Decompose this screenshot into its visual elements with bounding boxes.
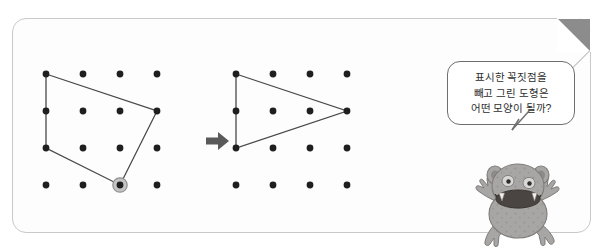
grid-dot	[80, 71, 87, 78]
grid-dot	[307, 145, 314, 152]
grid-dot	[270, 182, 277, 189]
speech-bubble-line-2: 빼고 그린 도형은	[454, 86, 568, 102]
grid-dot	[344, 145, 351, 152]
grid-dot	[117, 108, 124, 115]
grid-dot	[154, 71, 161, 78]
worksheet-card: 표시한 꼭짓점을 빼고 그린 도형은 어떤 모양이 될까?	[12, 18, 591, 233]
grid-dot	[233, 182, 240, 189]
grid-dot	[233, 71, 240, 78]
grid-dot	[270, 108, 277, 115]
grid-dot	[344, 71, 351, 78]
grid-dot	[270, 145, 277, 152]
marked-vertex-dot	[117, 182, 124, 189]
grid-dot	[154, 145, 161, 152]
speech-bubble-line-1: 표시한 꼭짓점을	[454, 70, 568, 86]
grid-dot	[117, 145, 124, 152]
transform-arrow-icon	[206, 131, 230, 151]
grid-dot	[80, 145, 87, 152]
speech-bubble-tail	[509, 111, 535, 133]
grid-dot	[43, 182, 50, 189]
grid-dot	[307, 182, 314, 189]
grid-dot	[80, 108, 87, 115]
right-figure-triangle	[233, 71, 393, 211]
grid-dot	[43, 108, 50, 115]
triangle-outline	[236, 74, 347, 148]
left-figure-quadrilateral	[43, 71, 203, 211]
grid-dot	[270, 71, 277, 78]
grid-dot	[43, 71, 50, 78]
grid-dot	[154, 108, 161, 115]
grid-dot	[154, 182, 161, 189]
grid-dot	[307, 71, 314, 78]
monster-left-pupil	[506, 179, 510, 183]
grid-dot	[117, 71, 124, 78]
grid-dot	[233, 108, 240, 115]
grid-dot	[80, 182, 87, 189]
monster-right-pupil	[527, 181, 531, 185]
grid-dot	[307, 108, 314, 115]
grid-dot	[344, 108, 351, 115]
grid-dot	[233, 145, 240, 152]
gray-monster-toad-illustration	[468, 157, 568, 248]
grid-dot	[43, 145, 50, 152]
quadrilateral-outline	[46, 74, 157, 185]
page-fold-corner-icon	[558, 19, 590, 51]
grid-dot	[344, 182, 351, 189]
